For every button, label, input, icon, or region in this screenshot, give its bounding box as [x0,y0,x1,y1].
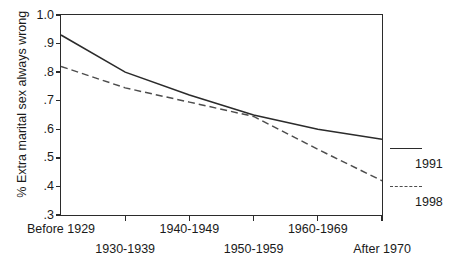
x-tick-mark [317,216,318,221]
y-tick-label: .9 [20,37,54,50]
y-tick-mark [56,100,61,101]
y-tick-label: .3 [20,209,54,222]
x-tick-mark [189,216,190,221]
x-tick-mark [125,216,126,221]
y-tick-label: .6 [20,123,54,136]
y-tick-label: .8 [20,66,54,79]
legend-label-1991: 1991 [415,158,443,171]
series-line-1998 [61,66,382,180]
chart-figure: % Extra marital sex always wrong 1.0.9.8… [0,0,459,265]
y-tick-mark [56,186,61,187]
y-tick-mark [56,214,61,215]
y-tick-label: .5 [20,151,54,164]
plot-area [60,14,383,216]
y-tick-mark [56,43,61,44]
x-tick-label: Before 1929 [6,223,116,236]
series-canvas [61,15,382,215]
y-tick-label: .4 [20,180,54,193]
series-line-1991 [61,35,382,139]
x-tick-label: 1950-1959 [199,243,309,256]
x-tick-label: 1940-1949 [134,223,244,236]
x-tick-label: After 1970 [327,243,437,256]
legend-swatch-dashed-icon [390,186,422,187]
legend-row-1998: 1998 [390,178,459,216]
legend-swatch-solid-icon [390,148,422,149]
x-tick-label: 1960-1969 [263,223,373,236]
x-tick-mark [381,216,382,221]
y-tick-mark [56,71,61,72]
y-tick-label: .7 [20,94,54,107]
y-tick-mark [56,129,61,130]
chart-legend: 1991 1998 [390,140,459,216]
y-tick-mark [56,14,61,15]
legend-label-1998: 1998 [415,196,443,209]
x-tick-label: 1930-1939 [70,243,180,256]
x-tick-mark [253,216,254,221]
legend-row-1991: 1991 [390,140,459,178]
y-tick-mark [56,157,61,158]
y-tick-label: 1.0 [20,9,54,22]
